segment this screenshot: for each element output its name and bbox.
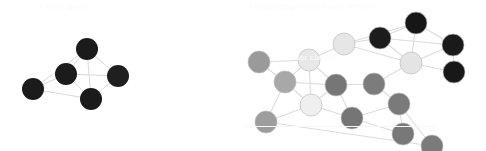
graph-node xyxy=(421,135,443,151)
graph-node xyxy=(388,93,410,115)
graph-node xyxy=(248,51,270,73)
graph-node xyxy=(369,27,391,49)
graph-node xyxy=(274,71,296,93)
graph-canvas xyxy=(0,0,486,151)
graph-node xyxy=(363,73,385,95)
graph-node xyxy=(22,78,44,100)
graph-node xyxy=(255,111,277,133)
graph-node xyxy=(107,65,129,87)
figure-root: a small graph a larger graph with many v… xyxy=(0,0,486,151)
graph-node xyxy=(405,12,427,34)
node-layer-left-graph xyxy=(22,38,129,110)
graph-node xyxy=(76,38,98,60)
graph-node xyxy=(442,34,464,56)
faint-caption-mid: color classes xyxy=(288,52,336,62)
graph-node xyxy=(400,52,422,74)
graph-node xyxy=(443,61,465,83)
graph-node xyxy=(300,94,322,116)
faint-horizontal-rule xyxy=(246,126,436,127)
graph-node xyxy=(80,88,102,110)
faint-caption-left: a small graph xyxy=(38,1,89,11)
faint-caption-right: a larger graph with many vertices xyxy=(248,1,375,11)
graph-node xyxy=(325,74,347,96)
graph-node xyxy=(55,63,77,85)
